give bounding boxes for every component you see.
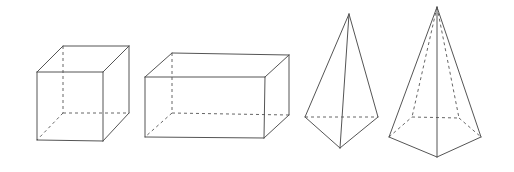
visible-edge <box>264 77 265 138</box>
visible-edge <box>37 46 63 72</box>
visible-edge <box>437 137 481 157</box>
visible-edge <box>103 113 129 141</box>
visible-edge <box>145 53 172 77</box>
visible-edge <box>340 117 378 148</box>
solids-diagram <box>0 0 514 172</box>
hidden-edge <box>412 117 459 118</box>
visible-edge <box>349 14 378 117</box>
visible-edge <box>145 137 264 138</box>
visible-edge <box>265 55 289 77</box>
visible-edge <box>389 137 437 157</box>
triangular-pyramid <box>305 14 378 148</box>
hidden-edge <box>412 7 437 117</box>
visible-edge <box>305 14 349 117</box>
visible-edge <box>103 46 129 72</box>
visible-edge <box>305 117 340 148</box>
hidden-edge <box>37 113 63 140</box>
visible-edge <box>340 14 349 148</box>
visible-edge <box>172 53 289 55</box>
hidden-edge <box>172 113 289 115</box>
pentagonal-pyramid <box>389 7 481 157</box>
rectangular-prism <box>145 53 289 138</box>
hidden-edge <box>145 113 172 137</box>
cube <box>37 46 129 141</box>
visible-edge <box>264 115 289 138</box>
visible-edge <box>37 140 103 141</box>
